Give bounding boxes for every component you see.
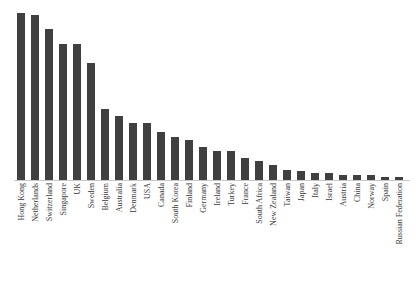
- bar: [171, 137, 179, 180]
- bar-slot: [168, 8, 182, 180]
- tick-label-slot: UK: [70, 183, 84, 287]
- tick-label-slot: Denmark: [126, 183, 140, 287]
- bar: [199, 147, 207, 180]
- tick-label-slot: Norway: [364, 183, 378, 287]
- bar-slot: [308, 8, 322, 180]
- tick-label-slot: Austria: [336, 183, 350, 287]
- tick-label-slot: Russian Federation: [392, 183, 406, 287]
- bar: [255, 161, 263, 180]
- bar-slot: [98, 8, 112, 180]
- tick-label-slot: Japan: [294, 183, 308, 287]
- x-axis-line: [14, 180, 410, 181]
- tick-label-slot: Belgium: [98, 183, 112, 287]
- bar: [157, 132, 165, 180]
- bar: [45, 29, 53, 180]
- x-axis-tick-label: USA: [143, 183, 152, 199]
- x-axis-tick-label: Austria: [339, 183, 348, 207]
- x-axis-tick-label: Ireland: [213, 183, 222, 206]
- tick-label-slot: Switzerland: [42, 183, 56, 287]
- bar: [283, 170, 291, 180]
- x-axis-tick-label: Italy: [311, 183, 320, 198]
- x-axis-tick-label: Germany: [199, 183, 208, 213]
- bar-slot: [210, 8, 224, 180]
- x-axis-tick-label: Hong Kong: [17, 183, 26, 221]
- bar: [17, 13, 25, 180]
- tick-label-slot: Australia: [112, 183, 126, 287]
- tick-label-slot: Turkey: [224, 183, 238, 287]
- tick-label-slot: USA: [140, 183, 154, 287]
- bar-slot: [252, 8, 266, 180]
- x-axis-tick-label: South Korea: [171, 183, 180, 223]
- bar: [129, 123, 137, 180]
- bar-slot: [70, 8, 84, 180]
- bar-slot: [224, 8, 238, 180]
- bar: [31, 15, 39, 180]
- tick-label-slot: France: [238, 183, 252, 287]
- bar: [241, 158, 249, 180]
- bar: [213, 151, 221, 180]
- bar-slot: [322, 8, 336, 180]
- bar-slot: [182, 8, 196, 180]
- tick-label-slot: Hong Kong: [14, 183, 28, 287]
- bar-slot: [14, 8, 28, 180]
- bar-slot: [28, 8, 42, 180]
- bar-slot: [56, 8, 70, 180]
- tick-label-slot: Taiwan: [280, 183, 294, 287]
- x-axis-tick-label: UK: [73, 183, 82, 195]
- plot-area: [14, 8, 406, 180]
- x-axis-tick-label: South Africa: [255, 183, 264, 224]
- bar-slot: [294, 8, 308, 180]
- tick-label-slot: Singapore: [56, 183, 70, 287]
- x-axis-tick-label: China: [353, 183, 362, 202]
- tick-label-slot: Israel: [322, 183, 336, 287]
- tick-label-slot: South Africa: [252, 183, 266, 287]
- bar: [297, 171, 305, 180]
- bar: [227, 151, 235, 180]
- bar-slot: [126, 8, 140, 180]
- x-axis-tick-label: Russian Federation: [395, 183, 404, 245]
- bar-slot: [350, 8, 364, 180]
- tick-label-slot: Finland: [182, 183, 196, 287]
- tick-label-slot: Italy: [308, 183, 322, 287]
- tick-label-slot: Germany: [196, 183, 210, 287]
- x-axis-tick-labels: Hong KongNetherlandsSwitzerlandSingapore…: [14, 183, 406, 287]
- tick-label-slot: Netherlands: [28, 183, 42, 287]
- x-axis-tick-label: Belgium: [101, 183, 110, 211]
- bar-slot: [84, 8, 98, 180]
- tick-label-slot: Ireland: [210, 183, 224, 287]
- bar: [185, 140, 193, 180]
- tick-label-slot: South Korea: [168, 183, 182, 287]
- x-axis-tick-label: Switzerland: [45, 183, 54, 221]
- x-axis-tick-label: New Zealand: [269, 183, 278, 226]
- tick-label-slot: Spain: [378, 183, 392, 287]
- x-axis-tick-label: Japan: [297, 183, 306, 201]
- x-axis-tick-label: Spain: [381, 183, 390, 201]
- bar: [143, 123, 151, 180]
- bar-slot: [392, 8, 406, 180]
- bar: [73, 44, 81, 180]
- tick-label-slot: Sweden: [84, 183, 98, 287]
- x-axis-tick-label: Singapore: [59, 183, 68, 215]
- bar-slot: [112, 8, 126, 180]
- tick-label-slot: China: [350, 183, 364, 287]
- bar: [325, 173, 333, 180]
- x-axis-tick-label: Australia: [115, 183, 124, 212]
- bar: [115, 116, 123, 180]
- bar-slot: [364, 8, 378, 180]
- bar-chart: Hong KongNetherlandsSwitzerlandSingapore…: [0, 0, 417, 287]
- bar: [59, 44, 67, 180]
- bar: [101, 109, 109, 180]
- x-axis-tick-label: Canada: [157, 183, 166, 207]
- x-axis-tick-label: Taiwan: [283, 183, 292, 206]
- tick-label-slot: Canada: [154, 183, 168, 287]
- bar-slot: [154, 8, 168, 180]
- x-axis-tick-label: Denmark: [129, 183, 138, 213]
- bar: [87, 63, 95, 180]
- bar-slot: [280, 8, 294, 180]
- bar-slot: [42, 8, 56, 180]
- x-axis-tick-label: Sweden: [87, 183, 96, 208]
- x-axis-tick-label: Finland: [185, 183, 194, 207]
- x-axis-tick-label: Turkey: [227, 183, 236, 206]
- x-axis-tick-label: Norway: [367, 183, 376, 209]
- bar-slot: [196, 8, 210, 180]
